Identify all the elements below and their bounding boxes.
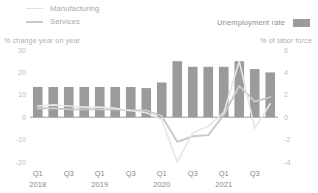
x-axis-tick-label: Q1 bbox=[83, 169, 117, 179]
y-axis-tick-label: 0 bbox=[6, 114, 26, 121]
plot-area bbox=[30, 50, 278, 162]
line-swatch-icon bbox=[26, 8, 43, 9]
bar bbox=[64, 87, 74, 117]
x-axis-year-label: 2020 bbox=[145, 180, 179, 190]
x-axis-year-label: 2021 bbox=[207, 180, 241, 190]
legend-lines: Manufacturing Services bbox=[26, 3, 99, 29]
line-swatch-icon bbox=[26, 21, 43, 23]
y2-axis-tick-label: -2 bbox=[284, 136, 306, 143]
x-axis-tick-label: Q1 bbox=[145, 169, 179, 179]
bar bbox=[188, 67, 198, 117]
y2-axis-tick-label: 4 bbox=[284, 69, 306, 76]
x-axis-tick-label: Q3 bbox=[52, 169, 86, 179]
legend-item-unemployment: Unemployment rate bbox=[217, 17, 310, 28]
legend-label-unemployment: Unemployment rate bbox=[217, 17, 285, 28]
left-axis-title: % change year on year bbox=[4, 36, 80, 45]
bar bbox=[79, 87, 89, 117]
bar bbox=[126, 87, 136, 117]
y2-axis-tick-label: 0 bbox=[284, 114, 306, 121]
right-axis-title: % of labor force bbox=[260, 36, 312, 45]
bar bbox=[95, 87, 105, 117]
legend-item-manufacturing: Manufacturing bbox=[26, 3, 99, 14]
x-axis-tick-label: Q3 bbox=[238, 169, 272, 179]
y2-axis-tick-label: -4 bbox=[284, 159, 306, 166]
y-axis-tick-label: 30 bbox=[6, 47, 26, 54]
x-axis-tick-label: Q3 bbox=[176, 169, 210, 179]
x-axis-tick-label: Q3 bbox=[114, 169, 148, 179]
chart-svg bbox=[30, 50, 278, 162]
x-axis-year-label: 2019 bbox=[83, 180, 117, 190]
bar bbox=[203, 67, 213, 117]
legend-label-services: Services bbox=[50, 16, 80, 27]
y2-axis-tick-label: 6 bbox=[284, 47, 306, 54]
x-axis-tick-label: Q1 bbox=[21, 169, 55, 179]
y-axis-tick-label: 20 bbox=[6, 69, 26, 76]
bar-swatch-icon bbox=[293, 19, 310, 27]
chart-container: Manufacturing Services Unemployment rate… bbox=[0, 0, 318, 193]
bar bbox=[172, 61, 182, 117]
bar bbox=[250, 69, 260, 117]
bar bbox=[110, 87, 120, 117]
y-axis-tick-label: 10 bbox=[6, 91, 26, 98]
y2-axis-tick-label: 2 bbox=[284, 91, 306, 98]
x-axis-tick-label: Q1 bbox=[207, 169, 241, 179]
y-axis-tick-label: -10 bbox=[6, 136, 26, 143]
bar bbox=[33, 87, 43, 117]
x-axis-year-label: 2018 bbox=[21, 180, 55, 190]
y-axis-tick-label: -20 bbox=[6, 159, 26, 166]
legend-label-manufacturing: Manufacturing bbox=[50, 3, 99, 14]
bar bbox=[48, 87, 58, 117]
bar bbox=[157, 82, 167, 117]
legend-item-services: Services bbox=[26, 16, 99, 27]
